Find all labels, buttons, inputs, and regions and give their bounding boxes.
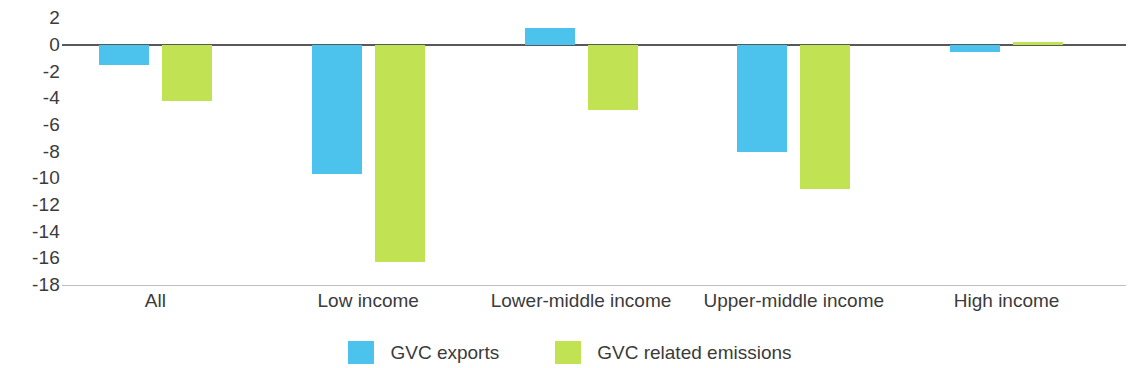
- y-axis-tick-label: 0: [2, 35, 60, 54]
- y-axis-tick-label: -10: [2, 168, 60, 187]
- legend-label: GVC exports: [390, 341, 499, 364]
- bar-gvc-related-emissions: [375, 45, 425, 262]
- bar-gvc-related-emissions: [1013, 42, 1063, 45]
- plot-area: [62, 0, 1126, 300]
- legend-color-swatch: [555, 341, 581, 364]
- legend-label: GVC related emissions: [597, 341, 791, 364]
- y-axis-tick-label: -14: [2, 222, 60, 241]
- y-axis-tick-label: -2: [2, 62, 60, 81]
- y-axis-tick-label: -12: [2, 195, 60, 214]
- x-axis-category-labels: AllLow incomeLower-middle incomeUpper-mi…: [62, 290, 1126, 320]
- bar-gvc-exports: [737, 45, 787, 152]
- bar-gvc-exports: [312, 45, 362, 174]
- x-axis-category-label: Upper-middle income: [704, 290, 885, 312]
- y-axis-tick-label: -18: [2, 275, 60, 294]
- bar-gvc-exports: [950, 45, 1000, 52]
- x-axis-category-label: Low income: [317, 290, 418, 312]
- x-axis-category-label: All: [145, 290, 166, 312]
- chart-baseline: [62, 285, 1126, 286]
- bar-gvc-related-emissions: [800, 45, 850, 189]
- x-axis-category-label: Lower-middle income: [491, 290, 672, 312]
- y-axis: 20-2-4-6-8-10-12-14-16-18: [0, 0, 60, 300]
- bar-gvc-related-emissions: [588, 45, 638, 110]
- legend-item: GVC related emissions: [555, 341, 791, 364]
- bar-gvc-related-emissions: [162, 45, 212, 101]
- bar-gvc-exports: [525, 28, 575, 45]
- legend-color-swatch: [348, 341, 374, 364]
- y-axis-tick-label: -8: [2, 142, 60, 161]
- x-axis-category-label: High income: [954, 290, 1060, 312]
- legend-item: GVC exports: [348, 341, 499, 364]
- y-axis-tick-label: -6: [2, 115, 60, 134]
- bar-gvc-exports: [99, 45, 149, 65]
- y-axis-tick-label: -16: [2, 248, 60, 267]
- chart-legend: GVC exportsGVC related emissions: [0, 336, 1140, 368]
- bar-chart: 20-2-4-6-8-10-12-14-16-18 AllLow incomeL…: [0, 0, 1140, 368]
- y-axis-tick-label: -4: [2, 88, 60, 107]
- y-axis-tick-label: 2: [2, 8, 60, 27]
